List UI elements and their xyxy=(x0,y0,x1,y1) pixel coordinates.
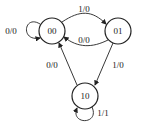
state-10: 10 xyxy=(72,83,98,109)
transition-01-10 xyxy=(95,43,113,85)
state-diagram: 00 01 10 0/0 1/0 0/0 1/0 0/0 1/1 xyxy=(0,0,142,130)
state-01: 01 xyxy=(105,18,131,44)
state-00: 00 xyxy=(39,18,65,44)
state-01-label: 01 xyxy=(114,26,123,36)
transition-label: 0/0 xyxy=(46,60,58,70)
state-10-label: 10 xyxy=(81,91,91,101)
transition-label: 1/1 xyxy=(97,108,109,118)
transition-label: 0/0 xyxy=(5,26,17,36)
transition-00-00 xyxy=(26,22,40,39)
state-00-label: 00 xyxy=(48,26,58,36)
transition-label: 0/0 xyxy=(78,35,90,45)
transition-label: 1/0 xyxy=(78,4,90,14)
transition-label: 1/0 xyxy=(112,60,124,70)
transition-00-01 xyxy=(62,13,106,24)
transition-10-00 xyxy=(59,43,77,85)
